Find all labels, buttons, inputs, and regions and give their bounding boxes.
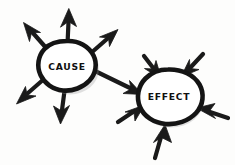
node-effect-label: EFFECT: [148, 91, 190, 102]
diagram-canvas: CAUSE EFFECT: [0, 0, 235, 165]
cause-effect-sketch: CAUSE EFFECT: [0, 0, 235, 165]
node-cause-label: CAUSE: [48, 61, 85, 72]
node-cause[interactable]: CAUSE: [38, 41, 99, 95]
node-effect[interactable]: EFFECT: [138, 69, 204, 127]
